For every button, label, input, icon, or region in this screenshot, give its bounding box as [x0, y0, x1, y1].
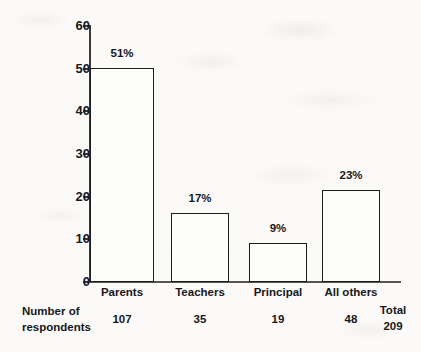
bar-parents — [90, 68, 154, 282]
y-tick-label-0: 0 — [62, 275, 90, 288]
total-value: 209 — [370, 319, 416, 335]
plot-area: 0 10 20 30 40 50 60 51% Parents — [0, 0, 421, 352]
bar-label-principal: 9% — [249, 223, 307, 235]
y-tick-label-30-wrap: 30 — [48, 153, 90, 155]
y-tick-label-10: 10 — [62, 232, 90, 245]
y-tick-label-50-wrap: 50 — [48, 68, 90, 70]
bar-teachers — [171, 213, 229, 282]
category-label-parents: Parents — [90, 286, 154, 299]
y-tick-label-50: 50 — [62, 62, 90, 75]
y-tick-label-30: 30 — [62, 147, 90, 160]
y-tick-label-40-wrap: 40 — [48, 110, 90, 112]
respondents-value-principal: 19 — [249, 313, 307, 325]
y-tick-label-20-wrap: 20 — [48, 196, 90, 198]
bar-all-others — [322, 190, 380, 282]
y-tick-label-60: 60 — [62, 19, 90, 32]
y-tick-label-0-wrap: 0 — [48, 281, 90, 283]
respondents-value-parents: 107 — [90, 313, 154, 325]
y-tick-label-60-wrap: 60 — [48, 25, 90, 27]
y-tick-label-40: 40 — [62, 104, 90, 117]
bar-principal — [249, 243, 307, 282]
bar-label-teachers: 17% — [171, 193, 229, 205]
total-block: Total 209 — [370, 303, 416, 334]
bar-chart-figure: 0 10 20 30 40 50 60 51% Parents — [0, 0, 421, 352]
bar-label-parents: 51% — [90, 48, 154, 60]
category-label-all-others: All others — [318, 286, 384, 299]
category-label-teachers: Teachers — [171, 286, 229, 299]
respondents-value-teachers: 35 — [171, 313, 229, 325]
total-label: Total — [370, 303, 416, 319]
y-tick-label-20: 20 — [62, 190, 90, 203]
category-label-principal: Principal — [249, 286, 307, 299]
y-tick-label-10-wrap: 10 — [48, 238, 90, 240]
bar-label-all-others: 23% — [322, 170, 380, 182]
